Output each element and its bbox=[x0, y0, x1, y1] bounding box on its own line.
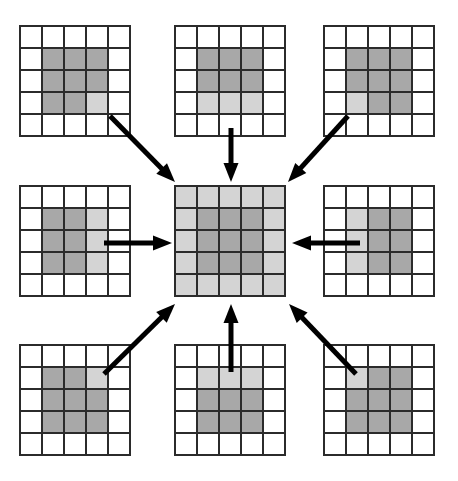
grid-cell bbox=[197, 433, 219, 455]
grid-cell bbox=[20, 345, 42, 367]
grid-cell bbox=[108, 274, 130, 296]
grid-cell bbox=[108, 186, 130, 208]
grid-cell bbox=[324, 252, 346, 274]
grid-cell bbox=[86, 252, 108, 274]
grid-cell bbox=[197, 367, 219, 389]
grid-cell bbox=[219, 208, 241, 230]
grid-cell bbox=[219, 26, 241, 48]
grid-cell bbox=[412, 252, 434, 274]
grid-cell bbox=[42, 186, 64, 208]
grid-cell bbox=[86, 186, 108, 208]
grid-cell bbox=[390, 274, 412, 296]
grid-cell bbox=[108, 208, 130, 230]
grid-cell bbox=[346, 411, 368, 433]
grid-cell bbox=[219, 389, 241, 411]
grid-cell bbox=[108, 389, 130, 411]
grid-cell bbox=[197, 70, 219, 92]
grid-cell bbox=[412, 230, 434, 252]
grid-cell bbox=[64, 208, 86, 230]
grid-cell bbox=[86, 48, 108, 70]
grid-cell bbox=[263, 367, 285, 389]
grid-cell bbox=[241, 252, 263, 274]
grid-cell bbox=[324, 411, 346, 433]
grid-cell bbox=[346, 274, 368, 296]
grid-cell bbox=[64, 367, 86, 389]
grid-cell bbox=[175, 433, 197, 455]
grid-cell bbox=[263, 186, 285, 208]
grid-cell bbox=[20, 274, 42, 296]
grid-cell bbox=[412, 208, 434, 230]
grid-cell bbox=[175, 252, 197, 274]
grid-cell bbox=[175, 26, 197, 48]
grid-cell bbox=[241, 367, 263, 389]
grid-cell bbox=[175, 208, 197, 230]
grid-cell bbox=[219, 186, 241, 208]
grid-cell bbox=[42, 230, 64, 252]
grid-cell bbox=[241, 26, 263, 48]
grid-cell bbox=[241, 70, 263, 92]
grid-cell bbox=[86, 389, 108, 411]
grid-cell bbox=[219, 70, 241, 92]
grid-cell bbox=[86, 274, 108, 296]
grid-cell bbox=[263, 252, 285, 274]
grid-cell bbox=[20, 411, 42, 433]
grid-cell bbox=[197, 92, 219, 114]
grid-cell bbox=[412, 186, 434, 208]
grid-cell bbox=[263, 389, 285, 411]
grid-cell bbox=[64, 274, 86, 296]
grid-cell bbox=[175, 411, 197, 433]
grid-cell bbox=[86, 208, 108, 230]
grid-cell bbox=[175, 70, 197, 92]
grid-cell bbox=[108, 26, 130, 48]
grid-cell bbox=[42, 433, 64, 455]
grid-cell bbox=[64, 230, 86, 252]
grid-cell bbox=[412, 92, 434, 114]
grid-cell bbox=[197, 411, 219, 433]
grid-cell bbox=[42, 48, 64, 70]
grid-cell bbox=[412, 274, 434, 296]
grid-cell bbox=[20, 186, 42, 208]
grid-cell bbox=[412, 389, 434, 411]
grid-cell bbox=[64, 26, 86, 48]
grid-cell bbox=[42, 252, 64, 274]
grid-cell bbox=[324, 274, 346, 296]
grid-cell bbox=[20, 70, 42, 92]
grid-cell bbox=[241, 389, 263, 411]
grid-cell bbox=[42, 70, 64, 92]
grid-cell bbox=[175, 48, 197, 70]
grid-cell bbox=[64, 186, 86, 208]
grid-cell bbox=[175, 367, 197, 389]
grid-cell bbox=[346, 186, 368, 208]
top-right-grid bbox=[324, 26, 434, 136]
grid-cell bbox=[42, 411, 64, 433]
grid-cell bbox=[175, 345, 197, 367]
grid-cell bbox=[64, 389, 86, 411]
grid-cell bbox=[86, 92, 108, 114]
grid-cell bbox=[20, 230, 42, 252]
grid-cell bbox=[20, 208, 42, 230]
grid-cell bbox=[108, 92, 130, 114]
grid-cell bbox=[263, 230, 285, 252]
grid-cell bbox=[64, 345, 86, 367]
center-grid bbox=[175, 186, 285, 296]
grid-cell bbox=[20, 48, 42, 70]
grid-cell bbox=[219, 274, 241, 296]
grid-cell bbox=[64, 411, 86, 433]
grid-cell bbox=[20, 92, 42, 114]
grid-cell bbox=[42, 274, 64, 296]
grid-cell bbox=[241, 345, 263, 367]
grid-cell bbox=[64, 433, 86, 455]
grid-cell bbox=[197, 345, 219, 367]
grid-cell bbox=[241, 274, 263, 296]
grid-cell bbox=[346, 48, 368, 70]
grid-cell bbox=[390, 345, 412, 367]
grid-cell bbox=[197, 389, 219, 411]
grid-cell bbox=[219, 92, 241, 114]
grid-cell bbox=[324, 26, 346, 48]
neighborhood-grid-diagram bbox=[0, 0, 458, 481]
grid-cell bbox=[263, 114, 285, 136]
grid-cell bbox=[241, 48, 263, 70]
grid-cell bbox=[175, 92, 197, 114]
grid-cell bbox=[368, 186, 390, 208]
grid-cell bbox=[20, 389, 42, 411]
